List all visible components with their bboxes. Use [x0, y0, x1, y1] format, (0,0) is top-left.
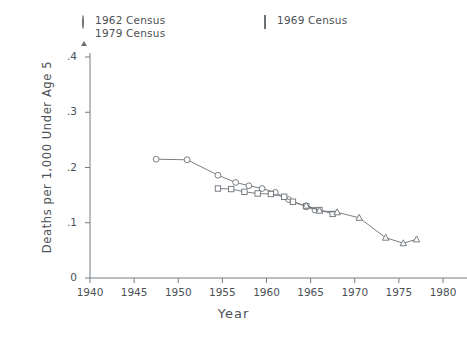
- x-tick-label: 1950: [158, 286, 198, 298]
- x-tick-label: 1960: [247, 286, 287, 298]
- series-triangle: [303, 202, 420, 246]
- x-tick-label: 1955: [202, 286, 242, 298]
- y-tick-label: .4: [51, 50, 77, 62]
- y-tick-label: .3: [51, 105, 77, 117]
- x-axis-title: Year: [0, 306, 467, 321]
- x-tick-label: 1945: [114, 286, 154, 298]
- x-tick-label: 1970: [335, 286, 375, 298]
- y-tick-label: 0: [51, 271, 77, 283]
- y-tick-label: .1: [51, 216, 77, 228]
- chart-figure: 1962 Census 1979 Census 1969 Census Deat…: [0, 0, 467, 342]
- x-tick-label: 1980: [423, 286, 463, 298]
- y-axis-title: Deaths per 1,000 Under Age 5: [40, 32, 54, 282]
- x-tick-label: 1965: [291, 286, 331, 298]
- x-tick-label: 1975: [379, 286, 419, 298]
- x-tick-label: 1940: [70, 286, 110, 298]
- y-tick-label: .2: [51, 161, 77, 173]
